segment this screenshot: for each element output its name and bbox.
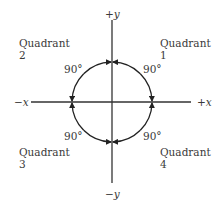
quadrant-3-label: Quadrant — [19, 146, 70, 158]
quadrant-1-label: Quadrant — [160, 37, 211, 49]
quadrant-1-angle: 90° — [143, 63, 162, 75]
quadrant-diagram: +y −y −x +x Quadrant 1 90° Quadrant 2 90… — [0, 0, 220, 207]
quadrant-3-angle: 90° — [64, 130, 83, 142]
quadrant-3-number: 3 — [19, 158, 26, 170]
quadrant-4-angle: 90° — [143, 130, 162, 142]
quadrant-4-number: 4 — [160, 158, 167, 170]
quadrant-2-label: Quadrant — [19, 37, 70, 49]
neg-x-label: −x — [14, 96, 29, 108]
quadrant-4-label: Quadrant — [160, 146, 211, 158]
pos-y-label: +y — [105, 8, 120, 20]
quadrant-1-number: 1 — [160, 49, 167, 61]
pos-x-label: +x — [197, 96, 212, 108]
quadrant-2-number: 2 — [19, 49, 26, 61]
neg-y-label: −y — [105, 188, 120, 200]
quadrant-2-angle: 90° — [64, 63, 83, 75]
diagram-canvas — [0, 0, 220, 207]
